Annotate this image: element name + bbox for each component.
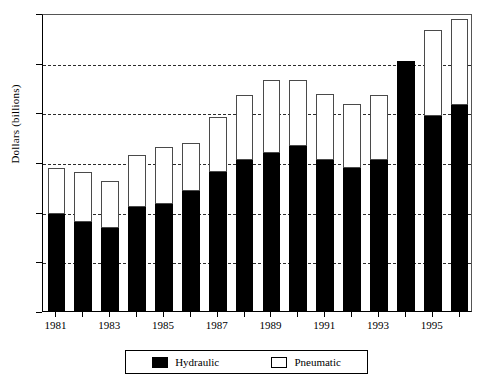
bar-group-1982[interactable] bbox=[74, 172, 92, 311]
bar-segment-pneumatic-1986[interactable] bbox=[182, 143, 200, 190]
bar-segment-pneumatic-1991[interactable] bbox=[316, 94, 334, 160]
bar-segment-pneumatic-1990[interactable] bbox=[289, 80, 307, 146]
x-tick-1991 bbox=[324, 312, 325, 317]
bar-segment-pneumatic-1983[interactable] bbox=[101, 181, 119, 228]
x-tick-1988 bbox=[244, 312, 245, 317]
bar-segment-hydraulic-1996[interactable] bbox=[451, 105, 469, 311]
bar-group-1992[interactable] bbox=[343, 104, 361, 311]
chart-legend: HydraulicPneumatic bbox=[125, 350, 368, 374]
bar-group-1995[interactable] bbox=[424, 30, 442, 311]
x-tick-1996 bbox=[459, 312, 460, 317]
x-tick-label-1983: 1983 bbox=[98, 319, 120, 331]
y-axis-title: Dollars (billions) bbox=[9, 69, 21, 179]
bar-group-1991[interactable] bbox=[316, 94, 334, 311]
x-tick-1987 bbox=[217, 312, 218, 317]
bar-group-1987[interactable] bbox=[209, 117, 227, 311]
bar-group-1983[interactable] bbox=[101, 181, 119, 311]
bar-group-1994[interactable] bbox=[397, 61, 415, 311]
bar-segment-hydraulic-1988[interactable] bbox=[236, 160, 254, 311]
x-tick-1993 bbox=[378, 312, 379, 317]
x-tick-1986 bbox=[190, 312, 191, 317]
x-tick-1984 bbox=[136, 312, 137, 317]
x-tick-1982 bbox=[82, 312, 83, 317]
bar-group-1981[interactable] bbox=[48, 168, 66, 311]
bar-segment-pneumatic-1996[interactable] bbox=[451, 19, 469, 105]
bar-segment-pneumatic-1982[interactable] bbox=[74, 172, 92, 222]
bar-group-1990[interactable] bbox=[289, 80, 307, 311]
bar-segment-hydraulic-1991[interactable] bbox=[316, 160, 334, 311]
bar-segment-pneumatic-1995[interactable] bbox=[424, 30, 442, 116]
bar-segment-hydraulic-1993[interactable] bbox=[370, 160, 388, 311]
bar-segment-hydraulic-1987[interactable] bbox=[209, 172, 227, 311]
bar-segment-hydraulic-1994[interactable] bbox=[397, 61, 415, 311]
x-tick-label-1993: 1993 bbox=[367, 319, 389, 331]
legend-entry-pneumatic[interactable]: Pneumatic bbox=[271, 356, 340, 368]
x-tick-1992 bbox=[351, 312, 352, 317]
bar-segment-hydraulic-1992[interactable] bbox=[343, 168, 361, 311]
y-tick-4 bbox=[36, 213, 42, 214]
bar-segment-hydraulic-1990[interactable] bbox=[289, 146, 307, 311]
bar-segment-pneumatic-1981[interactable] bbox=[48, 168, 66, 214]
bar-group-1986[interactable] bbox=[182, 143, 200, 311]
x-tick-label-1995: 1995 bbox=[421, 319, 443, 331]
bar-segment-hydraulic-1983[interactable] bbox=[101, 228, 119, 311]
bar-segment-hydraulic-1982[interactable] bbox=[74, 222, 92, 311]
bar-segment-pneumatic-1985[interactable] bbox=[155, 147, 173, 204]
y-tick-2 bbox=[36, 262, 42, 263]
bar-segment-hydraulic-1984[interactable] bbox=[128, 207, 146, 311]
bars-layer bbox=[43, 15, 471, 311]
bar-group-1985[interactable] bbox=[155, 147, 173, 311]
bar-group-1989[interactable] bbox=[263, 80, 281, 311]
x-tick-label-1989: 1989 bbox=[259, 319, 281, 331]
bar-group-1993[interactable] bbox=[370, 95, 388, 311]
bar-segment-hydraulic-1986[interactable] bbox=[182, 191, 200, 311]
x-tick-label-1987: 1987 bbox=[206, 319, 228, 331]
x-tick-1995 bbox=[432, 312, 433, 317]
bar-group-1996[interactable] bbox=[451, 19, 469, 311]
y-tick-6 bbox=[36, 163, 42, 164]
bar-segment-hydraulic-1995[interactable] bbox=[424, 116, 442, 311]
stacked-bar-chart: Dollars (billions) 024681012 19811983198… bbox=[0, 0, 491, 382]
bar-segment-pneumatic-1987[interactable] bbox=[209, 117, 227, 172]
bar-segment-pneumatic-1984[interactable] bbox=[128, 155, 146, 207]
legend-label-pneumatic: Pneumatic bbox=[294, 356, 340, 368]
x-axis: 19811983198519871989199119931995 bbox=[42, 312, 472, 342]
y-tick-8 bbox=[36, 113, 42, 114]
x-tick-1985 bbox=[163, 312, 164, 317]
x-tick-label-1991: 1991 bbox=[313, 319, 335, 331]
bar-segment-hydraulic-1985[interactable] bbox=[155, 204, 173, 311]
y-tick-12 bbox=[36, 14, 42, 15]
x-tick-1989 bbox=[270, 312, 271, 317]
bar-segment-hydraulic-1981[interactable] bbox=[48, 214, 66, 311]
bar-group-1988[interactable] bbox=[236, 95, 254, 311]
legend-label-hydraulic: Hydraulic bbox=[175, 356, 219, 368]
legend-swatch-pneumatic bbox=[271, 357, 287, 368]
bar-segment-pneumatic-1993[interactable] bbox=[370, 95, 388, 160]
x-tick-1994 bbox=[405, 312, 406, 317]
x-tick-1990 bbox=[297, 312, 298, 317]
bar-group-1984[interactable] bbox=[128, 155, 146, 311]
plot-area bbox=[42, 14, 472, 312]
legend-swatch-hydraulic bbox=[152, 357, 168, 368]
bar-segment-pneumatic-1988[interactable] bbox=[236, 95, 254, 160]
x-tick-1981 bbox=[55, 312, 56, 317]
bar-segment-pneumatic-1989[interactable] bbox=[263, 80, 281, 153]
bar-segment-hydraulic-1989[interactable] bbox=[263, 153, 281, 311]
legend-entry-hydraulic[interactable]: Hydraulic bbox=[152, 356, 219, 368]
x-tick-label-1981: 1981 bbox=[44, 319, 66, 331]
y-tick-10 bbox=[36, 64, 42, 65]
bar-segment-pneumatic-1992[interactable] bbox=[343, 104, 361, 169]
x-tick-label-1985: 1985 bbox=[152, 319, 174, 331]
x-tick-1983 bbox=[109, 312, 110, 317]
